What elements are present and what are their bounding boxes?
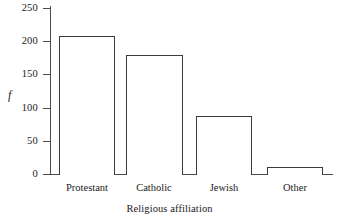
y-tick-mark-150 [43,74,50,75]
bar-catholic [126,55,183,175]
y-axis-line [50,6,51,175]
bar-other [267,167,323,175]
y-tick-label-150: 150 [12,69,38,79]
y-tick-label-200: 200 [12,36,38,46]
x-tick-label-other: Other [255,182,335,194]
frequency-bar-chart: f 0 50 100 150 200 250 Protestant Cathol… [0,0,339,223]
y-tick-label-0: 0 [12,169,38,179]
y-tick-mark-200 [43,41,50,42]
y-tick-label-250: 250 [12,3,38,13]
bar-jewish [196,116,252,175]
x-tick-label-jewish: Jewish [184,182,264,194]
y-tick-mark-250 [43,8,50,9]
y-tick-label-50: 50 [12,136,38,146]
x-axis-title: Religious affiliation [0,203,339,214]
x-tick-label-catholic: Catholic [114,182,194,194]
y-tick-mark-0 [43,174,50,175]
y-axis-label: f [8,88,11,103]
y-tick-mark-50 [43,141,50,142]
y-tick-mark-100 [43,108,50,109]
y-tick-label-100: 100 [12,103,38,113]
bar-protestant [59,36,115,175]
